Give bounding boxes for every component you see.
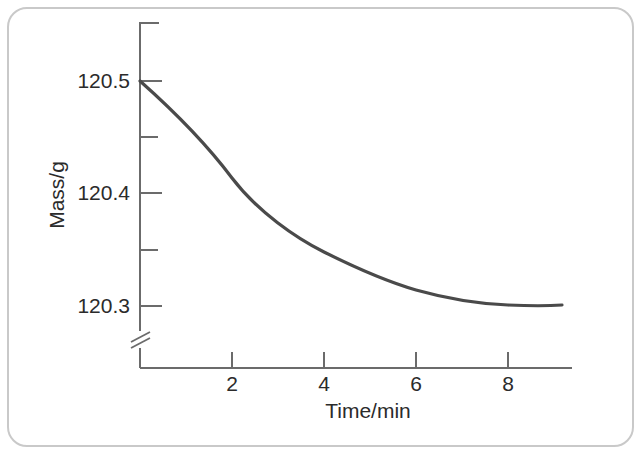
x-tick-label-1: 4	[318, 372, 330, 395]
chart-plot: 120.5 120.4 120.3 2 4 6 8 Mass/g Time/mi…	[0, 0, 643, 456]
x-tick-label-2: 6	[410, 372, 422, 395]
y-axis-title: Mass/g	[45, 161, 68, 229]
mass-decay-curve	[140, 81, 562, 306]
x-tick-label-0: 2	[226, 372, 238, 395]
y-tick-label-1: 120.4	[77, 181, 130, 204]
y-tick-label-0: 120.5	[77, 69, 130, 92]
x-axis-title: Time/min	[325, 399, 411, 422]
y-tick-label-2: 120.3	[77, 294, 130, 317]
x-tick-label-3: 8	[502, 372, 514, 395]
figure-root: 120.5 120.4 120.3 2 4 6 8 Mass/g Time/mi…	[0, 0, 643, 456]
